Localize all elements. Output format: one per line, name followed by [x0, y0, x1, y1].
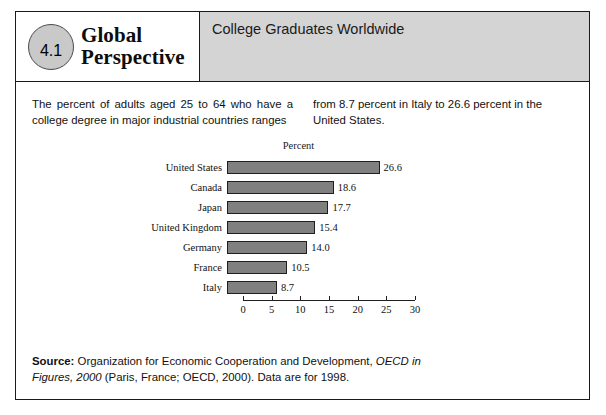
- bar-rect: [227, 221, 315, 234]
- bar-track: 14.0: [227, 237, 589, 257]
- bar-value-label: 15.4: [319, 222, 337, 233]
- x-axis-tick-label: 5: [269, 304, 274, 315]
- chart-plot-area: United States26.6Canada18.6Japan17.7Unit…: [16, 157, 589, 297]
- bar-track: 15.4: [227, 217, 589, 237]
- figure-brand: 4.1 Global Perspective: [16, 12, 200, 81]
- bar-category-label: United States: [16, 162, 227, 173]
- bar-value-label: 17.7: [332, 202, 350, 213]
- bar-row: United Kingdom15.4: [16, 217, 589, 237]
- bar-rect: [227, 281, 277, 294]
- bar-rect: [227, 181, 334, 194]
- bar-category-label: United Kingdom: [16, 222, 227, 233]
- x-axis-tick-label: 30: [410, 304, 421, 315]
- bar-track: 8.7: [227, 277, 589, 297]
- bar-category-label: Japan: [16, 202, 227, 213]
- brand-title-line-1: Global: [81, 25, 185, 46]
- source-text-after: (Paris, France; OECD, 2000). Data are fo…: [102, 371, 350, 383]
- bar-chart: Percent United States26.6Canada18.6Japan…: [16, 140, 589, 325]
- x-axis-tick: [386, 296, 387, 300]
- bar-row: Germany14.0: [16, 237, 589, 257]
- bar-track: 10.5: [227, 257, 589, 277]
- x-axis-tick-label: 0: [240, 304, 245, 315]
- x-axis-line: [243, 300, 415, 301]
- bar-row: United States26.6: [16, 157, 589, 177]
- bar-rect: [227, 241, 307, 254]
- bar-track: 17.7: [227, 197, 589, 217]
- bar-value-label: 18.6: [338, 182, 356, 193]
- source-label: Source:: [32, 355, 74, 367]
- x-axis-tick-label: 10: [295, 304, 306, 315]
- bar-rect: [227, 161, 380, 174]
- source-note: Source: Organization for Economic Cooper…: [32, 354, 452, 385]
- figure-number-badge: 4.1: [28, 24, 74, 70]
- bar-category-label: Germany: [16, 242, 227, 253]
- x-axis-tick-label: 25: [381, 304, 392, 315]
- bar-value-label: 10.5: [291, 262, 309, 273]
- bar-category-label: France: [16, 262, 227, 273]
- bar-value-label: 8.7: [281, 282, 294, 293]
- x-axis-tick: [415, 296, 416, 300]
- figure-title-bar: College Graduates Worldwide: [200, 12, 589, 81]
- bar-track: 18.6: [227, 177, 589, 197]
- bar-row: Italy8.7: [16, 277, 589, 297]
- x-axis-tick: [243, 296, 244, 300]
- chart-axis-title: Percent: [16, 140, 589, 151]
- x-axis-tick: [358, 296, 359, 300]
- bar-value-label: 14.0: [311, 242, 329, 253]
- x-axis-tick: [272, 296, 273, 300]
- bar-rect: [227, 261, 287, 274]
- chart-axis-title-label: Percent: [283, 140, 315, 151]
- x-axis-tick-label: 15: [324, 304, 335, 315]
- chart-x-axis: 051015202530: [243, 300, 415, 326]
- intro-column-right: from 8.7 percent in Italy to 26.6 percen…: [313, 96, 574, 128]
- x-axis-tick: [300, 296, 301, 300]
- brand-title-line-2: Perspective: [81, 47, 185, 68]
- bar-row: Canada18.6: [16, 177, 589, 197]
- x-axis-tick: [329, 296, 330, 300]
- bar-category-label: Canada: [16, 182, 227, 193]
- intro-text: The percent of adults aged 25 to 64 who …: [32, 96, 574, 128]
- source-text-before: Organization for Economic Cooperation an…: [74, 355, 375, 367]
- figure-box: 4.1 Global Perspective College Graduates…: [15, 11, 590, 400]
- brand-title: Global Perspective: [81, 25, 185, 68]
- intro-column-left: The percent of adults aged 25 to 64 who …: [32, 96, 293, 128]
- bar-rect: [227, 201, 328, 214]
- figure-header: 4.1 Global Perspective College Graduates…: [16, 12, 589, 82]
- bar-row: France10.5: [16, 257, 589, 277]
- x-axis-tick-label: 20: [352, 304, 363, 315]
- figure-number-label: 4.1: [40, 42, 62, 60]
- bar-row: Japan17.7: [16, 197, 589, 217]
- bar-track: 26.6: [227, 157, 589, 177]
- figure-title: College Graduates Worldwide: [212, 21, 404, 37]
- bar-category-label: Italy: [16, 282, 227, 293]
- bar-value-label: 26.6: [384, 162, 402, 173]
